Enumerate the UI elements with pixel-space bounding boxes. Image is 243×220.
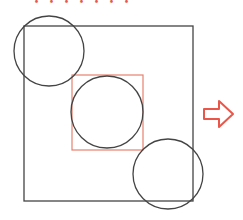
arrow-right-icon bbox=[204, 101, 233, 127]
outer-square bbox=[24, 26, 193, 201]
diagram bbox=[0, 0, 243, 220]
circle-middle bbox=[71, 76, 143, 148]
